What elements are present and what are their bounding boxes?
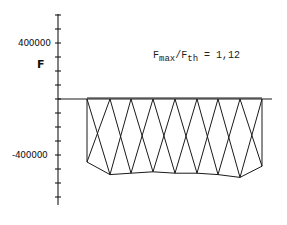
force-trace (87, 98, 262, 177)
y-axis-label: F (37, 58, 45, 71)
y-axis (55, 14, 61, 205)
annot-sub-th: th (187, 54, 198, 64)
annot-sub-max: max (159, 54, 175, 64)
trace-segment (131, 172, 153, 173)
trace-segment (240, 166, 262, 177)
annot-value: = 1,12 (198, 50, 240, 61)
y-tick-label-minus-400000: -400000 (12, 150, 48, 160)
trace-segment (240, 99, 262, 177)
trace-segment (153, 172, 175, 173)
annot-slash-f: /F (175, 50, 187, 61)
trace-segment (197, 173, 218, 174)
trace-segment (218, 175, 240, 178)
trace-segment (110, 173, 131, 174)
chart-plot (0, 0, 287, 225)
ratio-annotation: Fmax/Fth = 1,12 (153, 50, 240, 64)
trace-segment (87, 99, 110, 162)
y-tick-label-400000: 400000 (18, 38, 51, 48)
trace-segment (87, 99, 110, 175)
